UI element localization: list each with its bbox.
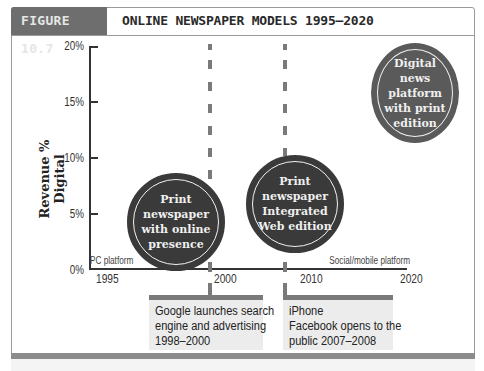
x-tick-1995: 1995 (96, 272, 119, 286)
x-tick-2020: 2020 (400, 272, 423, 286)
y-tick-15: 15% (51, 95, 84, 109)
x-tick-2010: 2010 (300, 272, 323, 286)
event-box-google: Google launches search engine and advert… (149, 300, 263, 350)
figure-title: ONLINE NEWSPAPER MODELS 1995–2020 (122, 7, 374, 35)
x-axis-line (89, 268, 407, 270)
y-tick-mark (89, 46, 98, 48)
social-mobile-platform-label: Social/mobile platform (320, 255, 410, 266)
y-tick-20: 20% (51, 39, 84, 53)
y-tick-mark (89, 157, 98, 159)
figure-number-label: FIGURE 10.7 (11, 7, 107, 35)
y-tick-10: 10% (51, 151, 84, 165)
model-circle-integrated-web-edition: Print newspaper Integrated Web edition (246, 155, 344, 253)
y-tick-mark (89, 213, 98, 215)
event-box-iphone-facebook: iPhone Facebook opens to the public 2007… (283, 300, 393, 350)
footer-area (11, 359, 475, 371)
figure-header: FIGURE 10.7 ONLINE NEWSPAPER MODELS 1995… (11, 7, 475, 36)
x-tick-2000: 2000 (214, 272, 237, 286)
model-circle-print-online-presence: Print newspaper with online presence (127, 173, 225, 271)
y-tick-0: 0% (51, 263, 84, 277)
y-axis-label: Revenue % Digital (37, 119, 67, 239)
y-tick-mark (89, 101, 98, 103)
y-tick-5: 5% (51, 207, 84, 221)
pc-platform-label: PC platform (90, 255, 133, 266)
model-circle-digital-news-platform: Digital news platform with print edition (371, 43, 459, 143)
